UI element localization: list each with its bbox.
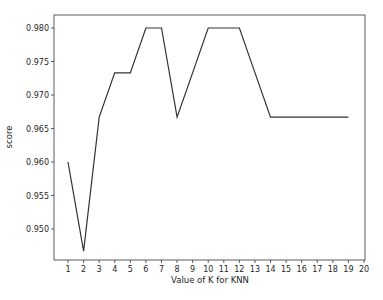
- x-tick-label: 13: [250, 265, 260, 274]
- y-tick-label: 0.965: [26, 125, 49, 134]
- x-tick-label: 17: [312, 265, 322, 274]
- x-tick-label: 19: [343, 265, 353, 274]
- x-tick-label: 20: [359, 265, 369, 274]
- axes-frame: [54, 15, 365, 260]
- y-tick-label: 0.980: [26, 24, 49, 33]
- y-axis-ticks: 0.9500.9550.9600.9650.9700.9750.980: [26, 24, 54, 234]
- y-tick-label: 0.950: [26, 225, 49, 234]
- x-tick-label: 12: [234, 265, 244, 274]
- x-tick-label: 5: [128, 265, 133, 274]
- x-tick-label: 14: [265, 265, 275, 274]
- x-tick-label: 18: [328, 265, 338, 274]
- x-tick-label: 11: [219, 265, 229, 274]
- y-axis-label: score: [4, 126, 14, 149]
- x-axis-ticks: 1234567891011121314151617181920: [65, 260, 369, 274]
- plot-area: [54, 15, 365, 260]
- x-tick-label: 8: [175, 265, 180, 274]
- x-tick-label: 1: [65, 265, 70, 274]
- series-line-0: [68, 28, 348, 251]
- y-tick-label: 0.975: [26, 58, 49, 67]
- y-tick-label: 0.970: [26, 91, 49, 100]
- x-tick-label: 9: [190, 265, 195, 274]
- x-tick-label: 15: [281, 265, 291, 274]
- y-tick-label: 0.955: [26, 192, 49, 201]
- x-tick-label: 2: [81, 265, 86, 274]
- x-tick-label: 16: [297, 265, 307, 274]
- x-tick-label: 6: [143, 265, 148, 274]
- x-tick-label: 3: [97, 265, 102, 274]
- x-axis-label: Value of K for KNN: [171, 275, 249, 285]
- y-tick-label: 0.960: [26, 158, 49, 167]
- line-chart: 1234567891011121314151617181920 0.9500.9…: [0, 0, 383, 300]
- x-tick-label: 4: [112, 265, 117, 274]
- x-tick-label: 10: [203, 265, 213, 274]
- x-tick-label: 7: [159, 265, 164, 274]
